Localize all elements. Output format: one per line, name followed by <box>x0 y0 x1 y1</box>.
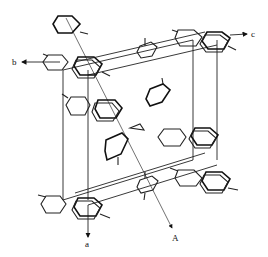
axis-b: b <box>12 57 60 67</box>
molecules <box>38 16 238 219</box>
axis-b-label: b <box>12 57 17 67</box>
ring-ml-1 <box>66 97 90 115</box>
ring-lc <box>105 133 128 160</box>
ring-mr-1 <box>158 129 186 146</box>
axis-c: c <box>230 29 255 39</box>
ring-tc <box>137 42 157 58</box>
axis-a: a <box>85 205 89 249</box>
axis-a-label: a <box>85 239 89 249</box>
ring-tl-1 <box>43 55 68 70</box>
crystal-structure-diagram: b c a A <box>0 0 268 257</box>
ring-fragment <box>130 124 144 130</box>
axis-A: A <box>66 18 179 243</box>
axis-c-label: c <box>251 29 255 39</box>
ring-bl-1 <box>41 196 66 213</box>
ring-center <box>146 84 170 106</box>
ring-br-1 <box>175 170 202 186</box>
axis-A-label: A <box>172 233 179 243</box>
